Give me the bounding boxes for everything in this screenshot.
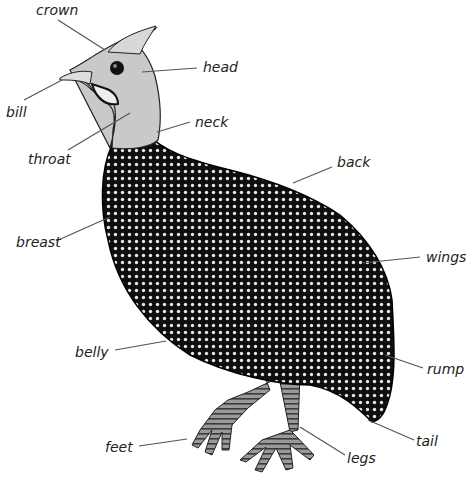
label-belly: belly	[75, 345, 109, 359]
eye	[110, 61, 124, 75]
casque	[108, 26, 156, 54]
guinea-fowl-anatomy-diagram: crownheadbillneckthroatbackbreastwingsbe…	[0, 0, 470, 495]
leader-line-tail	[368, 420, 414, 440]
label-neck: neck	[195, 115, 228, 129]
label-head: head	[203, 60, 238, 74]
leader-line-belly	[115, 341, 166, 350]
label-rump: rump	[427, 362, 464, 376]
leader-line-breast	[56, 217, 110, 241]
label-wings: wings	[426, 250, 466, 264]
label-tail: tail	[416, 434, 438, 448]
head-neck	[60, 28, 160, 149]
label-crown: crown	[36, 3, 78, 17]
label-throat: throat	[28, 152, 71, 166]
label-legs: legs	[347, 451, 376, 465]
legs-feet	[192, 370, 314, 472]
leader-line-neck	[157, 122, 190, 132]
label-bill: bill	[6, 105, 27, 119]
leader-line-crown	[58, 20, 105, 50]
label-feet: feet	[105, 440, 133, 454]
label-back: back	[337, 155, 370, 169]
leader-line-back	[293, 167, 332, 183]
leader-line-bill	[24, 80, 62, 100]
label-breast: breast	[16, 235, 61, 249]
leader-line-feet	[139, 439, 187, 446]
body-plumage	[102, 130, 394, 422]
